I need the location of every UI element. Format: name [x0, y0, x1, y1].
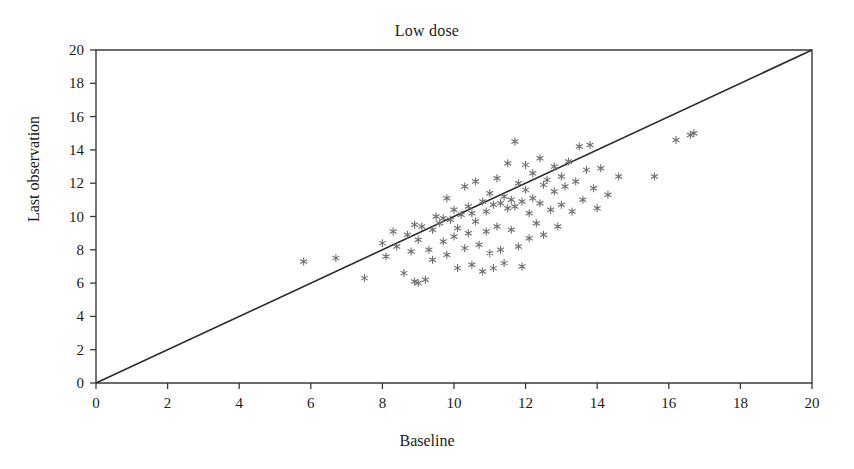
data-point-marker: [483, 227, 490, 235]
data-point-marker: [440, 237, 447, 245]
scatter-plot: 0246810121416182002468101214161820: [0, 0, 854, 469]
data-point-marker: [454, 264, 461, 272]
data-point-marker: [418, 222, 425, 230]
x-tick-label: 10: [447, 395, 462, 411]
data-point-marker: [536, 154, 543, 162]
y-tick-label: 14: [69, 142, 85, 158]
chart-figure: Low dose Last observation Baseline 02468…: [0, 0, 854, 469]
data-point-marker: [551, 188, 558, 196]
data-point-marker: [332, 254, 339, 262]
data-point-marker: [379, 239, 386, 247]
data-point-marker: [576, 143, 583, 151]
data-point-marker: [558, 201, 565, 209]
data-point-marker: [519, 262, 526, 270]
data-point-marker: [558, 173, 565, 181]
x-tick-label: 0: [92, 395, 100, 411]
data-point-marker: [590, 184, 597, 192]
data-point-marker: [361, 274, 368, 282]
data-point-marker: [494, 222, 501, 230]
data-point-marker: [504, 159, 511, 167]
data-point-marker: [497, 199, 504, 207]
data-point-marker: [461, 244, 468, 252]
data-point-marker: [572, 178, 579, 186]
x-tick-label: 12: [518, 395, 533, 411]
tick-labels-group: 0246810121416182002468101214161820: [69, 42, 820, 411]
data-point-marker: [501, 259, 508, 267]
data-point-marker: [651, 173, 658, 181]
x-tick-label: 14: [590, 395, 606, 411]
data-point-marker: [522, 186, 529, 194]
data-point-marker: [547, 206, 554, 214]
y-tick-label: 0: [77, 375, 85, 391]
data-point-marker: [411, 221, 418, 229]
data-point-marker: [540, 231, 547, 239]
data-point-marker: [508, 226, 515, 234]
y-tick-label: 20: [69, 42, 84, 58]
data-point-marker: [472, 178, 479, 186]
y-tick-label: 18: [69, 75, 84, 91]
data-point-marker: [587, 141, 594, 149]
data-point-marker: [451, 232, 458, 240]
data-point-marker: [562, 183, 569, 191]
y-tick-label: 16: [69, 109, 85, 125]
data-point-marker: [522, 161, 529, 169]
x-tick-label: 4: [235, 395, 243, 411]
x-tick-label: 16: [661, 395, 677, 411]
data-point-marker: [497, 246, 504, 254]
data-point-marker: [408, 247, 415, 255]
data-point-marker: [468, 261, 475, 269]
y-tick-label: 2: [77, 342, 85, 358]
data-point-marker: [433, 213, 440, 221]
data-point-marker: [511, 203, 518, 211]
data-point-marker: [476, 241, 483, 249]
data-point-marker: [383, 252, 390, 260]
data-point-marker: [400, 269, 407, 277]
x-tick-label: 18: [733, 395, 748, 411]
data-point-marker: [468, 209, 475, 217]
data-point-marker: [390, 227, 397, 235]
data-point-marker: [451, 206, 458, 214]
data-point-marker: [604, 191, 611, 199]
data-point-marker: [415, 236, 422, 244]
data-point-marker: [579, 196, 586, 204]
data-point-marker: [526, 209, 533, 217]
data-point-marker: [443, 251, 450, 259]
data-point-marker: [515, 242, 522, 250]
data-point-marker: [504, 204, 511, 212]
data-point-marker: [519, 198, 526, 206]
data-point-marker: [490, 201, 497, 209]
data-point-marker: [454, 224, 461, 232]
data-point-marker: [425, 246, 432, 254]
data-point-marker: [529, 169, 536, 177]
data-point-marker: [490, 264, 497, 272]
x-tick-label: 6: [307, 395, 315, 411]
data-point-marker: [508, 196, 515, 204]
data-point-marker: [443, 194, 450, 202]
data-point-marker: [465, 229, 472, 237]
data-point-marker: [569, 208, 576, 216]
data-point-marker: [486, 189, 493, 197]
data-point-marker: [486, 249, 493, 257]
data-point-marker: [615, 173, 622, 181]
identity-line: [96, 50, 812, 383]
x-tick-label: 20: [805, 395, 820, 411]
x-tick-label: 2: [164, 395, 172, 411]
data-point-marker: [536, 199, 543, 207]
data-point-marker: [540, 181, 547, 189]
identity-reference-line: [96, 50, 812, 383]
data-point-marker: [544, 176, 551, 184]
data-point-marker: [472, 218, 479, 226]
data-point-marker: [511, 138, 518, 146]
data-point-marker: [494, 174, 501, 182]
data-point-marker: [300, 257, 307, 265]
x-tick-label: 8: [379, 395, 387, 411]
data-point-marker: [597, 164, 604, 172]
y-tick-label: 4: [77, 308, 85, 324]
data-point-marker: [554, 222, 561, 230]
data-point-marker: [529, 194, 536, 202]
data-point-marker: [533, 219, 540, 227]
data-point-marker: [429, 256, 436, 264]
y-tick-label: 8: [77, 242, 85, 258]
y-tick-label: 10: [69, 209, 84, 225]
data-point-marker: [594, 204, 601, 212]
